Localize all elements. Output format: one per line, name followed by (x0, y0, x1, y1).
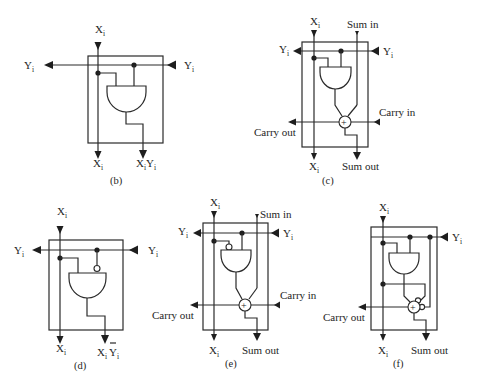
x-out-arrow-icon (211, 334, 217, 341)
caption-b: (b) (110, 175, 123, 187)
x-in-arrow-icon (311, 30, 317, 37)
x-in-arrow-icon (380, 216, 386, 223)
label-y-in: Yi (184, 59, 194, 74)
label-sum-out: Sum out (411, 344, 448, 356)
y-out-arrow-icon (44, 61, 53, 69)
label-x-in: Xi (210, 196, 220, 211)
plus-icon: + (410, 302, 416, 313)
and-gate-icon (320, 67, 351, 89)
caption-e: (e) (225, 358, 237, 370)
label-y-out: Yi (279, 43, 289, 58)
sum-out-arrow-icon (253, 333, 261, 341)
x-in-arrow-icon (211, 211, 217, 218)
inverter-bubble-icon (226, 244, 232, 250)
caption-d: (d) (74, 360, 87, 372)
label-sum-out: Sum out (242, 344, 279, 356)
sum-in-arrow-icon (255, 214, 259, 218)
x-out-arrow-icon (311, 153, 317, 160)
wire (345, 128, 357, 156)
label-product: XiYi (136, 157, 156, 172)
wire (335, 89, 342, 116)
y-in-arrow-icon (167, 61, 176, 70)
label-y-in: Yi (283, 227, 293, 242)
x-in-arrow-icon (95, 42, 102, 50)
wire (249, 288, 257, 299)
y-in-arrow-icon (440, 233, 448, 242)
x-out-arrow-icon (380, 334, 386, 341)
label-carry-in: Carry in (379, 106, 416, 118)
carry-in-arrow-icon (274, 302, 280, 309)
label-x-out: Xi (56, 342, 66, 357)
carry-out-arrow-icon (288, 119, 296, 126)
wire (348, 105, 357, 116)
wire (98, 73, 116, 86)
and-gate-icon (107, 86, 146, 112)
plus-icon: + (241, 300, 247, 311)
label-y-out: Yi (178, 225, 188, 240)
label-x-in: Xi (57, 205, 67, 220)
y-in-arrow-icon (129, 246, 138, 255)
label-carry-out: Carry out (323, 311, 365, 323)
wire (236, 272, 242, 299)
output-arrow-icon (101, 335, 109, 344)
inverter-bubble-icon (94, 266, 100, 272)
label-sum-out: Sum out (342, 160, 379, 172)
label-sum-in: Sum in (260, 208, 292, 220)
label-x-out: Xi (93, 157, 103, 172)
carry-out-arrow-icon (190, 302, 198, 309)
label-carry-in: Carry in (280, 289, 317, 301)
sum-in-arrow-icon (355, 31, 359, 35)
y-in-arrow-icon (271, 229, 279, 238)
label-y-in: Yi (383, 45, 393, 60)
plus-icon: + (341, 117, 347, 128)
panel-f: + Xi Yi Carry out Xi Sum out (f) (323, 201, 462, 370)
wire (404, 274, 410, 302)
and-gate-icon (221, 250, 251, 272)
label-x-in: Xi (379, 201, 389, 216)
wire (126, 112, 143, 154)
wire (60, 258, 78, 273)
y-in-arrow-icon (371, 47, 379, 56)
label-y-out: Yi (24, 59, 34, 74)
label-x-out: Xi (209, 344, 219, 359)
sum-out-arrow-icon (422, 333, 430, 341)
label-y-in: Yi (148, 244, 158, 259)
label-y-in: Yi (452, 231, 462, 246)
panel-c: + Xi Sum in Yi Yi Carry in Carry out Xi … (254, 15, 416, 187)
and-gate-icon (389, 253, 419, 274)
panel-d: Xi Yi Yi Xi XiYi (d) (14, 205, 158, 372)
caption-f: (f) (393, 358, 404, 370)
wire (87, 298, 105, 339)
wire (214, 241, 229, 244)
label-sum-in: Sum in (347, 18, 379, 30)
carry-out-arrow-icon (358, 304, 366, 311)
label-x-out: Xi (378, 344, 388, 359)
y-out-arrow-icon (193, 229, 201, 237)
panel-b: Xi Yi Yi Xi XiYi (b) (24, 23, 194, 187)
label-carry-out: Carry out (152, 309, 194, 321)
label-product-inverted: XiYi (97, 346, 119, 361)
label-x-in: Xi (95, 23, 105, 38)
caption-c: (c) (322, 175, 334, 187)
x-in-arrow-icon (57, 226, 64, 234)
multiplier-cell-diagram: Xi Yi Yi Xi XiYi (b) + Xi Sum in (0, 0, 482, 391)
label-y-out: Yi (14, 244, 24, 259)
label-x-in: Xi (310, 15, 320, 30)
label-carry-out: Carry out (254, 126, 296, 138)
panel-e: + Xi Sum in Yi Yi Carry in Carry out Xi … (152, 196, 317, 370)
sum-out-arrow-icon (353, 152, 361, 160)
carry-in-arrow-icon (374, 119, 380, 126)
y-out-arrow-icon (293, 47, 301, 55)
label-x-out: Xi (309, 160, 319, 175)
y-out-arrow-icon (32, 246, 41, 254)
and-gate-icon (69, 273, 106, 298)
